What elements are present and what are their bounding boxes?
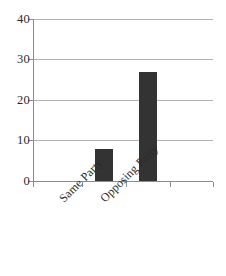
x-tick-mark-4	[213, 182, 214, 187]
x-tick-mark-3	[170, 182, 171, 187]
plot-area	[33, 19, 213, 181]
y-tick-label-20: 20	[4, 94, 30, 107]
y-tick-label-10: 10	[4, 134, 30, 147]
gridline-10	[33, 140, 213, 141]
x-tick-mark-0	[33, 182, 34, 187]
gridline-20	[33, 100, 213, 101]
y-axis-line	[33, 19, 34, 182]
gridline-30	[33, 59, 213, 60]
y-tick-label-0: 0	[4, 175, 30, 188]
y-tick-label-30: 30	[4, 53, 30, 66]
bar-chart: 40 30 20 10 0 Same Party Opposing Party	[0, 0, 226, 276]
gridline-40	[33, 19, 213, 20]
y-tick-label-40: 40	[4, 13, 30, 26]
